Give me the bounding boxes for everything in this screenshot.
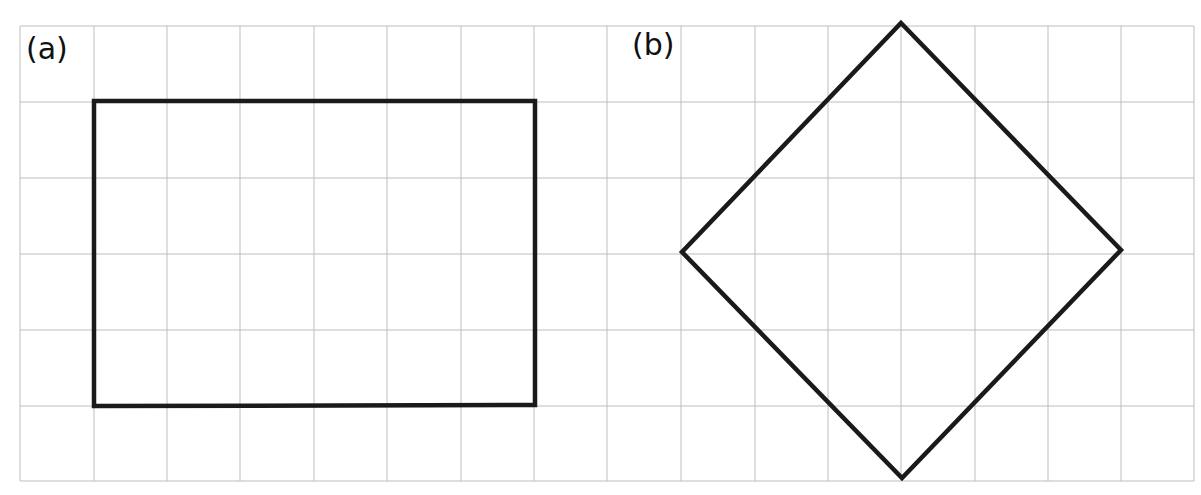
label-a: (a) — [26, 34, 68, 64]
label-b: (b) — [632, 30, 674, 60]
grid-diagram — [0, 0, 1201, 495]
grid-lines — [20, 26, 1194, 481]
